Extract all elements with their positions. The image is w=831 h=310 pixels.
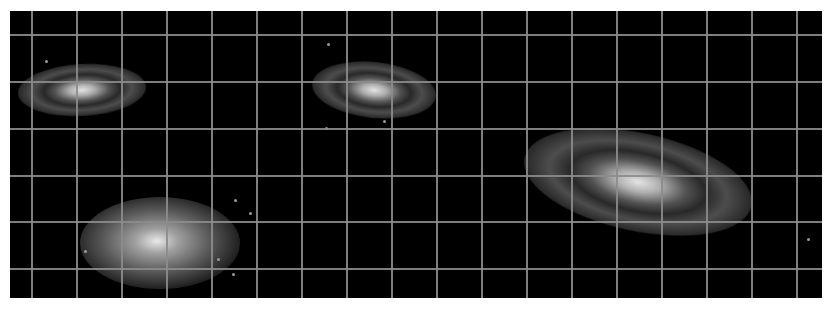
grid-line-vertical <box>796 11 798 298</box>
grid-line-vertical <box>256 11 258 298</box>
grid-line-vertical <box>436 11 438 298</box>
grid-line-vertical <box>31 11 33 298</box>
star-point <box>383 120 386 123</box>
star-point <box>325 127 328 130</box>
star-point <box>234 199 237 202</box>
grid-line-vertical <box>346 11 348 298</box>
star-point <box>249 212 252 215</box>
grid-line-vertical <box>751 11 753 298</box>
grid-line-vertical <box>391 11 393 298</box>
grid-line-vertical <box>301 11 303 298</box>
sky-image-panel <box>10 11 822 298</box>
star-point <box>84 250 87 253</box>
grid-line-horizontal <box>10 128 822 130</box>
grid-line-horizontal <box>10 34 822 36</box>
galaxy-top-left <box>17 61 148 120</box>
star-point <box>327 43 330 46</box>
star-point <box>232 273 235 276</box>
grid-line-vertical <box>481 11 483 298</box>
galaxy-top-middle <box>309 56 438 125</box>
galaxy-bottom-left <box>80 197 240 289</box>
grid-line-vertical <box>76 11 78 298</box>
star-point <box>807 238 810 241</box>
star-point <box>45 60 48 63</box>
star-point <box>217 258 220 261</box>
galaxy-right-large <box>514 110 761 254</box>
